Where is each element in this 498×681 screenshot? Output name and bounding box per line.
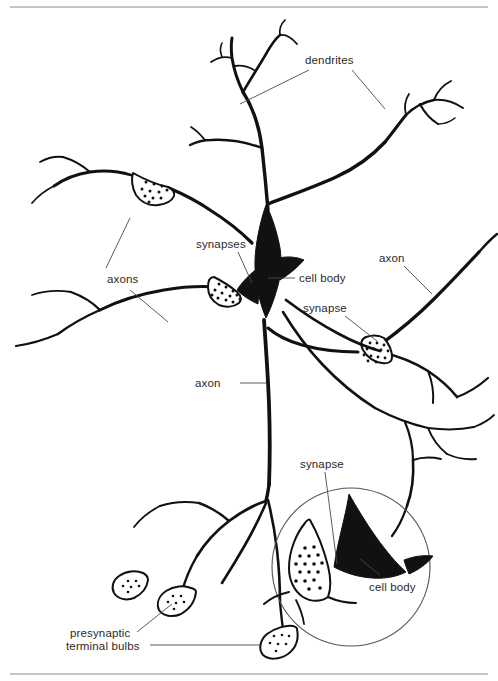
- terminal-bulb-upper-left: [132, 173, 174, 205]
- figure-canvas: dendrites synapses axons cell body synap…: [0, 0, 498, 681]
- neuron-diagram: dendrites synapses axons cell body synap…: [0, 0, 498, 681]
- label-presynaptic-line2: terminal bulbs: [66, 640, 140, 652]
- label-synapse-inset: synapse: [300, 458, 344, 470]
- label-axon-right: axon: [379, 252, 405, 264]
- leader-axon-right: [404, 266, 432, 294]
- leader-synapse-inset: [325, 472, 337, 564]
- axon-left-to-soma: [16, 287, 216, 346]
- dendrite-right-lower: [283, 300, 494, 536]
- cell-body-central: [237, 205, 304, 318]
- dendrite-upper-right: [268, 81, 463, 204]
- axon-terminal-branches: [134, 500, 283, 629]
- leader-synapse-right: [345, 316, 377, 341]
- leader-axons-lower: [130, 290, 168, 322]
- leader-presynaptic-upper: [137, 604, 172, 632]
- label-axons: axons: [107, 273, 139, 285]
- leader-axons-upper: [106, 218, 130, 268]
- label-cell-body-inset: cell body: [369, 581, 416, 593]
- terminal-bulb-lower-left: [113, 571, 148, 599]
- axon-main-descending: [264, 320, 270, 501]
- label-dendrites: dendrites: [305, 54, 354, 66]
- leader-dendrites-right: [352, 70, 385, 109]
- label-cell-body-main: cell body: [299, 272, 346, 284]
- label-presynaptic-line1: presynaptic: [70, 627, 131, 639]
- leader-dendrites-left: [240, 70, 309, 104]
- label-synapse-right: synapse: [303, 302, 347, 314]
- label-synapses: synapses: [196, 238, 246, 250]
- cell-body-inset: [334, 494, 433, 578]
- leader-synapses: [238, 252, 252, 283]
- terminal-bulb-lower-middle: [158, 586, 196, 616]
- label-axon-middle: axon: [195, 377, 221, 389]
- terminal-bulb-lower-right: [260, 626, 297, 659]
- dendrite-tree-top: [190, 20, 297, 210]
